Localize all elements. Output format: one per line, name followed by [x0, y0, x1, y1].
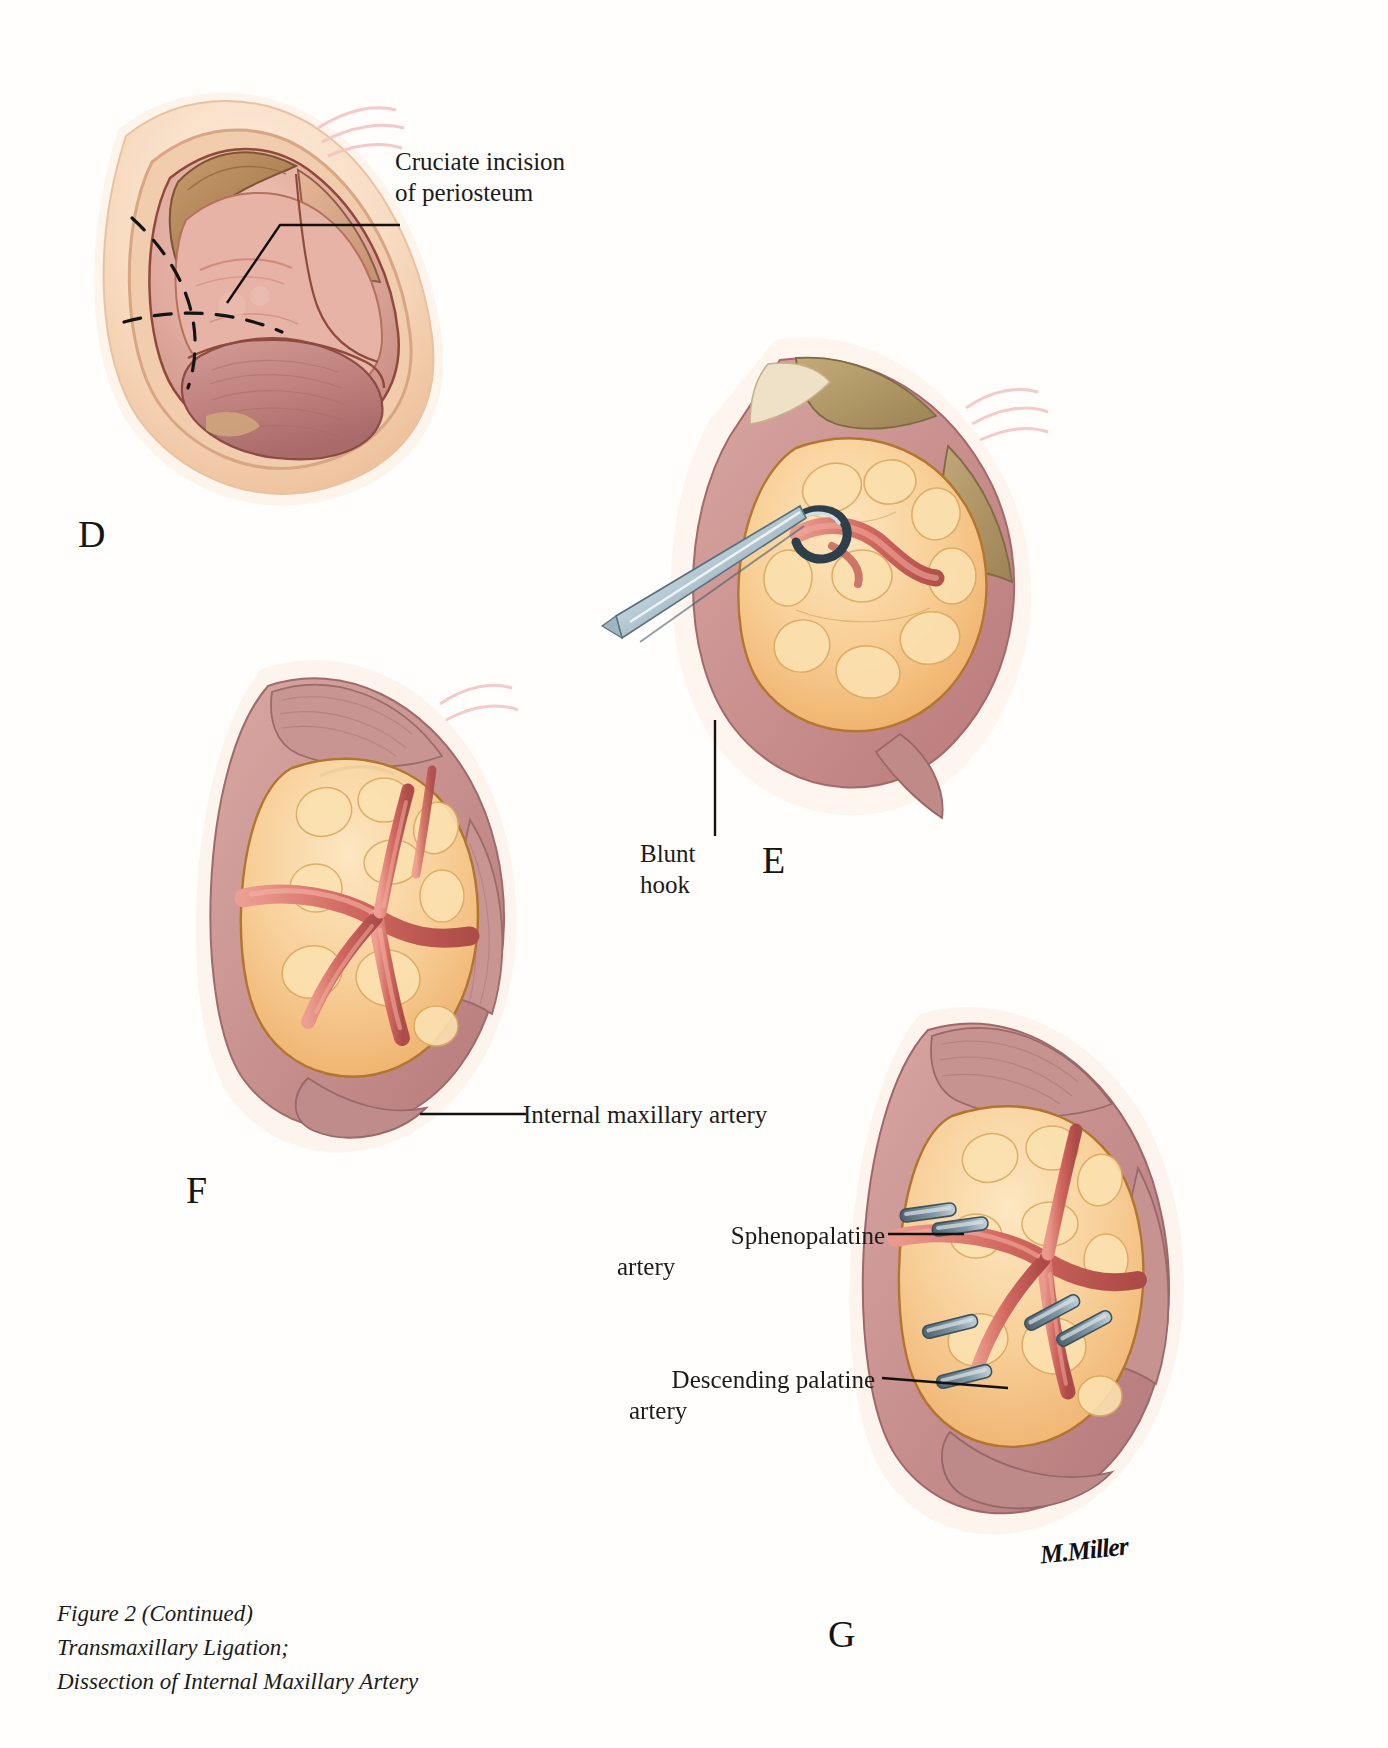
- panel-letter-e: E: [762, 838, 785, 882]
- figure-caption-line-1: Figure 2 (Continued): [57, 1597, 253, 1631]
- sphenopalatine-artery-leader: [886, 1222, 966, 1246]
- figure-caption-line-3: Dissection of Internal Maxillary Artery: [57, 1665, 418, 1699]
- internal-maxillary-artery-leader: [418, 1104, 528, 1124]
- blunt-hook-leader: [706, 718, 726, 838]
- figure-caption-line-2: Transmaxillary Ligation;: [57, 1631, 289, 1665]
- panel-e-illustration: [600, 320, 1080, 840]
- descending-palatine-artery-label-line2: artery: [629, 1395, 687, 1426]
- sphenopalatine-artery-label: Sphenopalatine: [540, 1220, 885, 1251]
- panel-letter-d: D: [78, 512, 105, 556]
- blunt-hook-label: Blunt: [640, 838, 696, 869]
- cruciate-incision-label-line2: of periosteum: [395, 177, 533, 208]
- panel-d-illustration: [60, 70, 480, 540]
- cruciate-incision-leader: [225, 155, 410, 305]
- illustration-page: Cruciate incision of periosteum Blunt ho…: [0, 0, 1388, 1748]
- blunt-hook-label-line2: hook: [640, 869, 690, 900]
- panel-letter-g: G: [828, 1612, 855, 1656]
- descending-palatine-artery-leader: [880, 1366, 1010, 1406]
- cruciate-incision-label: Cruciate incision: [395, 146, 565, 177]
- internal-maxillary-artery-label: Internal maxillary artery: [523, 1099, 767, 1130]
- descending-palatine-artery-label: Descending palatine: [540, 1364, 875, 1395]
- panel-letter-f: F: [186, 1168, 207, 1212]
- sphenopalatine-artery-label-line2: artery: [617, 1251, 675, 1282]
- panel-g-illustration: [800, 980, 1220, 1580]
